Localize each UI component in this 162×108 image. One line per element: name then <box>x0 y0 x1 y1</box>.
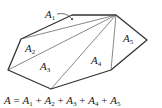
label-a5: A5 <box>122 32 134 46</box>
polygon-diagram: A1 A2 A3 A4 A5 A = A1 + A2 + A3 + A4 + A… <box>0 0 162 108</box>
diagonal-1 <box>21 15 116 39</box>
a1-dot <box>71 18 73 20</box>
label-a2: A2 <box>24 42 36 56</box>
area-formula: A = A1 + A2 + A3 + A4 + A5 <box>3 94 121 108</box>
label-a1: A1 <box>44 8 56 22</box>
a1-leader-line <box>57 14 71 19</box>
label-a3: A3 <box>39 60 51 74</box>
diagonal-4 <box>111 15 116 70</box>
label-a4: A4 <box>90 54 102 68</box>
diagonal-3 <box>51 15 116 89</box>
